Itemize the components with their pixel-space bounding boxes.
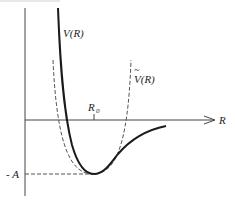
harmonic-label: V(R) <box>134 73 155 86</box>
well-depth-label: - A <box>6 168 19 180</box>
potential-label: V(R) <box>63 27 84 40</box>
equilibrium-label: R <box>87 101 95 113</box>
potential-diagram: V(R) ~ V(R) R 0 R - A <box>0 0 235 210</box>
harmonic-approx-curve <box>53 60 131 174</box>
equilibrium-subscript: 0 <box>96 107 100 115</box>
x-axis-label: R <box>218 114 226 126</box>
